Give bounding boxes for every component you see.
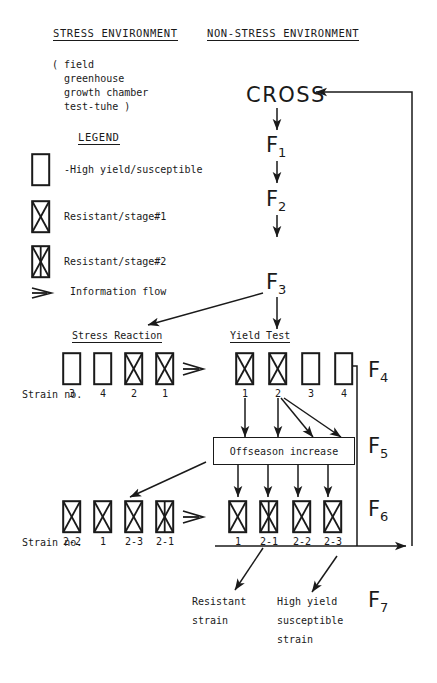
arrow-f4yt2-branch-b	[284, 398, 341, 437]
node-f1: F1	[266, 133, 286, 160]
node-cross: CROSS	[246, 83, 326, 107]
node-f1-letter: F	[266, 133, 278, 157]
box-number-f6-stress-3: 2-3	[120, 536, 148, 547]
node-f3: F3	[266, 270, 286, 297]
box-number-f6-yield-2: 2-1	[255, 536, 283, 547]
box-f4-yield-1[interactable]	[235, 352, 255, 386]
box-number-f6-stress-2: 1	[89, 536, 117, 547]
legend-title: LEGEND	[78, 131, 120, 145]
box-f4-yield-2[interactable]	[268, 352, 288, 386]
arrow-to-highyield-strain	[312, 556, 337, 592]
box-number-f4-stress-4: 1	[155, 388, 175, 399]
diagram-canvas: STRESS ENVIRONMENT NON-STRESS ENVIRONMEN…	[0, 0, 437, 683]
box-f4-stress-2[interactable]	[93, 352, 113, 386]
box-f6-stress-4[interactable]	[155, 500, 175, 534]
box-number-f4-stress-2: 4	[93, 388, 113, 399]
box-f4-yield-4[interactable]	[334, 352, 354, 386]
box-f4-stress-1[interactable]	[62, 352, 82, 386]
box-f6-stress-1[interactable]	[62, 500, 82, 534]
legend-symbol-empty-box	[31, 153, 51, 187]
generation-label-f4: F4	[368, 358, 388, 385]
node-f2-letter: F	[266, 187, 278, 211]
box-number-f4-yield-3: 3	[301, 388, 321, 399]
gen-f6-letter: F	[368, 497, 380, 521]
box-f4-stress-3[interactable]	[124, 352, 144, 386]
box-f4-yield-3[interactable]	[301, 352, 321, 386]
box-f6-stress-3[interactable]	[124, 500, 144, 534]
offseason-increase-box[interactable]: Offseason increase	[213, 437, 355, 465]
header-stress-environment: STRESS ENVIRONMENT	[53, 27, 178, 41]
box-number-f6-yield-3: 2-2	[288, 536, 316, 547]
box-number-f6-stress-4: 2-1	[151, 536, 179, 547]
gen-f4-sub: 4	[380, 370, 388, 385]
legend-label-resistant-stage1: Resistant/stage#1	[64, 211, 166, 222]
arrow-offseason-to-f6-stress	[130, 462, 206, 497]
header-non-stress-environment: NON-STRESS ENVIRONMENT	[207, 27, 359, 41]
node-f2: F2	[266, 187, 286, 214]
legend-symbol-open-arrow-icon	[31, 285, 59, 301]
box-number-f4-yield-4: 4	[334, 388, 354, 399]
outcome-highyield-line-1: High yield	[277, 592, 343, 611]
information-flow-arrow-f4-icon	[182, 360, 212, 378]
box-f6-yield-1[interactable]	[228, 500, 248, 534]
node-f2-sub: 2	[278, 199, 286, 214]
box-number-f4-yield-2: 2	[268, 388, 288, 399]
box-f6-stress-2[interactable]	[93, 500, 113, 534]
offseason-increase-label: Offseason increase	[230, 446, 338, 457]
line-outer-feedback-to-cross	[316, 92, 412, 546]
column-label-stress-reaction: Stress Reaction	[72, 330, 162, 343]
outcome-resistant-strain: Resistant strain	[192, 592, 246, 630]
legend-label-high-yield: -High yield/susceptible	[64, 164, 202, 175]
outcome-resistant-line-2: strain	[192, 611, 246, 630]
box-f6-yield-2[interactable]	[259, 500, 279, 534]
box-number-f4-yield-1: 1	[235, 388, 255, 399]
gen-f5-sub: 5	[380, 446, 388, 461]
gen-f4-letter: F	[368, 358, 380, 382]
information-flow-arrow-f6-icon	[182, 508, 212, 526]
outcome-highyield-line-2: susceptible	[277, 611, 343, 630]
column-label-yield-test: Yield Test	[230, 330, 290, 343]
box-number-f6-stress-1: 2-2	[58, 536, 86, 547]
generation-label-f5: F5	[368, 434, 388, 461]
node-f3-letter: F	[266, 270, 278, 294]
box-f6-yield-3[interactable]	[292, 500, 312, 534]
legend-label-resistant-stage2: Resistant/stage#2	[64, 256, 166, 267]
legend-symbol-x-box	[31, 200, 51, 234]
box-number-f4-stress-1: 3	[62, 388, 82, 399]
box-f4-stress-4[interactable]	[155, 352, 175, 386]
arrow-f4yt2-branch-a	[281, 398, 313, 437]
outcome-highyield-line-3: strain	[277, 630, 343, 649]
gen-f7-letter: F	[368, 588, 380, 612]
legend-label-information-flow: Information flow	[70, 286, 166, 297]
box-number-f6-yield-1: 1	[224, 536, 252, 547]
arrow-to-resistant-strain	[235, 548, 263, 590]
box-number-f6-yield-4: 2-3	[319, 536, 347, 547]
outcome-resistant-line-1: Resistant	[192, 592, 246, 611]
environment-list: ( field greenhouse growth chamber test-t…	[52, 58, 148, 114]
generation-label-f6: F6	[368, 497, 388, 524]
generation-label-f7: F7	[368, 588, 388, 615]
gen-f5-letter: F	[368, 434, 380, 458]
legend-symbol-double-x-box	[31, 245, 51, 279]
node-f1-sub: 1	[278, 145, 286, 160]
node-f3-sub: 3	[278, 282, 286, 297]
outcome-high-yield-strain: High yield susceptible strain	[277, 592, 343, 649]
box-number-f4-stress-3: 2	[124, 388, 144, 399]
arrow-f3-to-stressreaction	[148, 293, 263, 325]
box-f6-yield-4[interactable]	[323, 500, 343, 534]
gen-f6-sub: 6	[380, 509, 388, 524]
gen-f7-sub: 7	[380, 600, 388, 615]
